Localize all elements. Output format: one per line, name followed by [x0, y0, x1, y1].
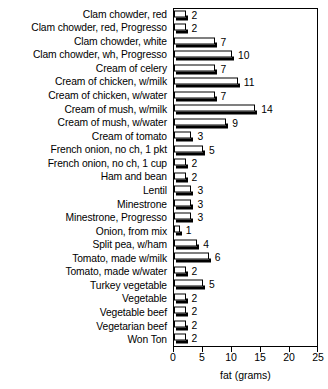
- bar: [174, 199, 193, 210]
- category-label: Clam chowder, wh, Progresso: [0, 49, 170, 63]
- bar: [174, 132, 193, 143]
- bar-face: [174, 226, 180, 233]
- bar: [174, 145, 205, 156]
- category-label: Onion, from mix: [0, 225, 170, 239]
- x-axis-tick-label: 10: [225, 352, 237, 363]
- bar-row: 2: [174, 306, 317, 319]
- bar-face: [174, 159, 186, 166]
- bar-value-label: 2: [192, 24, 198, 34]
- category-label: Tomato, made w/water: [0, 266, 170, 280]
- category-label: Vegetarian beef: [0, 320, 170, 334]
- bar-face: [174, 118, 226, 125]
- bar-face: [174, 172, 186, 179]
- bar-face: [174, 24, 186, 31]
- bar-row: 5: [174, 144, 317, 157]
- bar-face: [174, 64, 215, 71]
- bar-row: 2: [174, 171, 317, 184]
- bar-value-label: 10: [238, 51, 249, 61]
- bar-value-label: 2: [192, 267, 198, 277]
- category-label: Cream of mush, w/water: [0, 117, 170, 131]
- bar-face: [174, 132, 191, 139]
- bar: [174, 91, 217, 102]
- category-label: Clam chowder, red: [0, 8, 170, 22]
- x-axis-tick-label: 20: [283, 352, 295, 363]
- category-label: French onion, no ch, 1 pkt: [0, 144, 170, 158]
- bar-face: [174, 51, 232, 58]
- bar: [174, 159, 188, 170]
- bar-face: [174, 266, 186, 273]
- bar-value-label: 9: [232, 118, 238, 128]
- bar-row: 2: [174, 319, 317, 332]
- bar-face: [174, 334, 186, 341]
- category-label: Ham and bean: [0, 171, 170, 185]
- x-axis-tick-label: 25: [312, 352, 324, 363]
- bar-face: [174, 10, 186, 17]
- bar-value-label: 2: [192, 321, 198, 331]
- category-label: Cream of chicken, w/water: [0, 89, 170, 103]
- category-label: Turkey vegetable: [0, 279, 170, 293]
- bar: [174, 253, 211, 264]
- bar-value-label: 5: [209, 145, 215, 155]
- bar-row: 4: [174, 238, 317, 251]
- bar-row: 11: [174, 76, 317, 89]
- bar: [174, 10, 188, 21]
- bar: [174, 64, 217, 75]
- bar-value-label: 3: [197, 199, 203, 209]
- bar-value-label: 3: [197, 213, 203, 223]
- bar-row: 3: [174, 130, 317, 143]
- bar-value-label: 4: [203, 240, 209, 250]
- category-label: Vegetable beef: [0, 306, 170, 320]
- bar-value-label: 2: [192, 159, 198, 169]
- bar: [174, 51, 234, 62]
- category-label: Split pea, w/ham: [0, 239, 170, 253]
- bar-row: 3: [174, 211, 317, 224]
- bar-row: 2: [174, 22, 317, 35]
- bar: [174, 213, 193, 224]
- bar-row: 3: [174, 198, 317, 211]
- bar: [174, 78, 240, 89]
- bar: [174, 172, 188, 183]
- bar-value-label: 5: [209, 280, 215, 290]
- bar-value-label: 6: [215, 253, 221, 263]
- bar: [174, 266, 188, 277]
- category-label: Clam chowder, red, Progresso: [0, 22, 170, 36]
- bar-row: 7: [174, 36, 317, 49]
- bar: [174, 118, 228, 129]
- horizontal-bar-chart: Clam chowder, redClam chowder, red, Prog…: [0, 0, 328, 389]
- bar-value-label: 14: [261, 105, 272, 115]
- category-label: Cream of mush, w/milk: [0, 103, 170, 117]
- bar-value-label: 2: [192, 294, 198, 304]
- bar-row: 2: [174, 265, 317, 278]
- bar-row: 2: [174, 333, 317, 346]
- bar-face: [174, 91, 215, 98]
- category-label: Lentil: [0, 184, 170, 198]
- bar-row: 2: [174, 9, 317, 22]
- bar-value-label: 2: [192, 307, 198, 317]
- category-label: Tomato, made w/milk: [0, 252, 170, 266]
- bar-face: [174, 253, 209, 260]
- bar: [174, 334, 188, 345]
- bar-value-label: 3: [197, 132, 203, 142]
- bar-row: 7: [174, 63, 317, 76]
- bar: [174, 186, 193, 197]
- bar-row: 14: [174, 103, 317, 116]
- bar-row: 6: [174, 252, 317, 265]
- x-axis-tick-label: 0: [170, 352, 176, 363]
- bar-value-label: 2: [192, 172, 198, 182]
- bar-face: [174, 239, 197, 246]
- bar-row: 1: [174, 225, 317, 238]
- bar: [174, 105, 257, 116]
- bar: [174, 280, 205, 291]
- bar-face: [174, 78, 238, 85]
- category-label: Vegetable: [0, 293, 170, 307]
- bar-value-label: 7: [221, 38, 227, 48]
- bar-face: [174, 280, 203, 287]
- bar-face: [174, 307, 186, 314]
- bar-face: [174, 213, 191, 220]
- bar-value-label: 7: [221, 91, 227, 101]
- bar-row: 2: [174, 157, 317, 170]
- bar-value-label: 1: [186, 226, 192, 236]
- x-axis-title: fat (grams): [173, 370, 318, 381]
- category-axis-labels: Clam chowder, redClam chowder, red, Prog…: [0, 8, 170, 347]
- bar-value-label: 11: [244, 78, 255, 88]
